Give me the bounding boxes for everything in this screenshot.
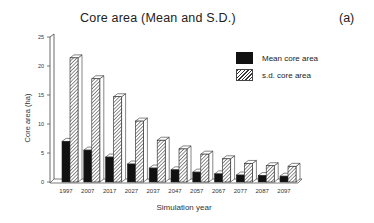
- legend: Mean core area s.d. core area: [236, 50, 318, 84]
- bar: [244, 160, 256, 182]
- x-tick-label: 2087: [256, 188, 270, 194]
- legend-label: s.d. core area: [262, 71, 311, 80]
- bar: [92, 76, 104, 182]
- bar: [201, 151, 213, 182]
- y-tick-label: 5: [41, 150, 44, 156]
- legend-item-sd: s.d. core area: [236, 67, 318, 83]
- x-tick-label: 2017: [103, 188, 117, 194]
- x-tick-label: 2047: [168, 188, 182, 194]
- x-axis-tick-labels: 1997200720172027203720472057206720772087…: [59, 188, 291, 194]
- y-tick-label: 0: [41, 179, 44, 185]
- chart-title: Core area (Mean and S.D.): [80, 11, 236, 25]
- panel-label: (a): [339, 11, 354, 25]
- y-axis: 0510152025: [38, 34, 54, 185]
- y-tick-label: 15: [38, 92, 44, 98]
- legend-item-mean: Mean core area: [236, 50, 318, 66]
- bar: [157, 137, 169, 182]
- bar: [114, 94, 126, 182]
- legend-swatch-solid-icon: [236, 52, 253, 64]
- bar: [223, 156, 235, 182]
- bar: [70, 55, 82, 182]
- bar: [179, 146, 191, 182]
- x-tick-label: 2077: [234, 188, 248, 194]
- x-tick-label: 2097: [277, 188, 291, 194]
- bar: [288, 163, 300, 182]
- y-tick-label: 20: [38, 63, 44, 69]
- y-axis-label: Core area (ha): [23, 94, 32, 143]
- legend-swatch-hatched-icon: [236, 69, 253, 81]
- x-axis-label: Simulation year: [156, 203, 211, 212]
- x-tick-label: 2037: [147, 188, 161, 194]
- x-tick-label: 2057: [190, 188, 204, 194]
- x-tick-label: 2007: [81, 188, 95, 194]
- x-tick-label: 2027: [125, 188, 139, 194]
- y-tick-label: 25: [38, 34, 44, 40]
- x-tick-label: 1997: [59, 188, 73, 194]
- x-tick-label: 2067: [212, 188, 226, 194]
- legend-label: Mean core area: [262, 54, 318, 63]
- chart-plot-area: 0510152025 19972007201720272037204720572…: [0, 0, 374, 223]
- bar: [266, 163, 278, 182]
- bar: [135, 118, 147, 182]
- y-tick-label: 10: [38, 121, 44, 127]
